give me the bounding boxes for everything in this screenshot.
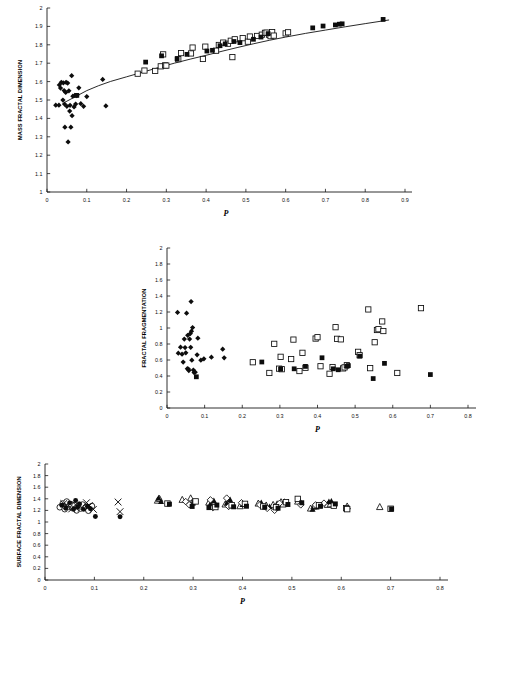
y-axis-tick-label: 1.4 [35, 115, 43, 121]
series-open-square [135, 29, 291, 76]
data-point-square-filled [244, 504, 249, 509]
x-axis-title: P [315, 425, 320, 434]
y-axis-title: FRACTAL FRAGMENTATION [141, 289, 147, 368]
data-point-diamond-filled [84, 94, 89, 99]
x-axis-tick-label: 0.6 [338, 585, 346, 591]
data-point-square-filled [74, 93, 79, 98]
series-open-square [250, 306, 423, 377]
data-point-square-open [344, 506, 349, 511]
data-point-square-open [327, 371, 332, 376]
data-point-square-filled [331, 366, 336, 371]
y-axis-tick-label: 1 [38, 519, 41, 525]
y-axis-tick-label: 1.9 [35, 23, 43, 29]
data-point-square-open [297, 368, 302, 373]
data-point-square-filled [143, 60, 148, 65]
data-point-square-open [318, 364, 323, 369]
y-axis-tick-label: 1.8 [35, 42, 43, 48]
y-axis-tick-label: 1.7 [35, 60, 43, 66]
data-point-square-filled [206, 505, 211, 510]
y-axis-tick-label: 2 [40, 5, 43, 11]
x-axis-tick-label: 0.8 [436, 585, 444, 591]
data-point-diamond-filled [188, 299, 193, 304]
data-point-square-filled [159, 53, 164, 58]
figure-container: 00.10.20.30.40.50.60.70.80.911.11.21.31.… [0, 0, 507, 685]
y-axis-tick-label: 1.2 [35, 152, 43, 158]
data-point-square-open [178, 50, 183, 55]
data-point-diamond-filled [103, 103, 108, 108]
y-axis-tick-label: 1.2 [155, 309, 163, 315]
x-axis-tick-label: 0.5 [242, 197, 250, 203]
y-axis-tick-label: 0.2 [33, 565, 41, 571]
chart-panel-mass-fractal-dimension: 00.10.20.30.40.50.60.70.80.911.11.21.31.… [0, 0, 507, 230]
data-point-square-filled [210, 48, 215, 53]
data-point-square-filled [185, 52, 190, 57]
x-axis-tick-label: 0.9 [401, 197, 409, 203]
y-axis-tick-label: 1 [160, 325, 163, 331]
data-point-diamond-filled [176, 351, 181, 356]
y-axis-title: MASS FRACTAL DIMENSION [17, 60, 23, 140]
data-point-diamond-filled [189, 358, 194, 363]
data-point-square-open [291, 337, 296, 342]
y-axis-tick-label: 0.2 [155, 389, 163, 395]
data-point-square-filled [428, 372, 433, 377]
data-point-diamond-filled [194, 352, 199, 357]
data-point-square-open [240, 36, 245, 41]
axes: 00.10.20.30.40.50.60.70.800.20.40.60.811… [33, 461, 448, 591]
y-axis-tick-label: 1.6 [35, 79, 43, 85]
data-point-square-filled [262, 505, 267, 510]
data-point-square-filled [238, 40, 243, 45]
data-point-square-filled [194, 374, 199, 379]
data-point-square-open [381, 328, 386, 333]
y-axis-tick-label: 0.4 [155, 373, 163, 379]
data-point-square-open [338, 337, 343, 342]
y-axis-tick-label: 1.6 [155, 277, 163, 283]
data-point-square-filled [320, 355, 325, 360]
data-point-square-filled [218, 43, 223, 48]
data-point-square-open [300, 350, 305, 355]
data-point-square-filled [175, 56, 180, 61]
plot-area-b: 00.10.20.30.40.50.60.70.800.20.40.60.811… [141, 245, 476, 434]
y-axis-tick-label: 1.6 [33, 484, 41, 490]
x-axis-tick-label: 0.6 [282, 197, 290, 203]
data-point-square-filled [389, 506, 394, 511]
y-axis-tick-label: 2 [38, 461, 41, 467]
data-point-square-open [164, 63, 169, 68]
plot-area-a: 00.10.20.30.40.50.60.70.80.911.11.21.31.… [17, 5, 412, 218]
data-point-square-open [366, 307, 371, 312]
x-axis-tick-label: 0.7 [427, 413, 435, 419]
x-axis-tick-label: 0 [46, 197, 49, 203]
data-point-square-filled [318, 504, 323, 509]
data-point-square-filled [232, 39, 237, 44]
x-axis-tick-label: 0.5 [288, 585, 296, 591]
x-axis-tick-label: 0.3 [189, 585, 197, 591]
data-point-square-filled [340, 21, 345, 26]
x-axis-tick-label: 0.1 [83, 197, 91, 203]
data-point-square-open [278, 354, 283, 359]
data-point-diamond-filled [182, 336, 187, 341]
y-axis-title: SURFACE FRACTAL DIMENSION [16, 476, 22, 567]
data-point-square-filled [276, 506, 281, 511]
y-axis-tick-label: 1.4 [155, 293, 163, 299]
y-axis-tick-label: 0.6 [33, 542, 41, 548]
x-axis-tick-label: 0.5 [351, 413, 359, 419]
x-axis-title: P [224, 209, 229, 218]
x-axis-tick-label: 0.4 [239, 585, 247, 591]
series-filled-diamond [53, 73, 108, 144]
data-point-square-open [267, 370, 272, 375]
data-point-square-open [271, 33, 276, 38]
y-axis-tick-label: 1.1 [35, 171, 43, 177]
data-point-square-filled [357, 354, 362, 359]
data-point-square-open [380, 319, 385, 324]
data-point-diamond-filled [209, 355, 214, 360]
data-point-square-filled [285, 502, 290, 507]
data-point-diamond-filled [69, 113, 74, 118]
data-point-square-filled [205, 49, 210, 54]
data-point-square-filled [303, 364, 308, 369]
fractal-fragmentation-plot: 00.10.20.30.40.50.60.70.800.20.40.60.811… [0, 238, 507, 443]
data-point-square-filled [336, 367, 341, 372]
data-point-diamond-filled [188, 345, 193, 350]
data-point-square-open [135, 71, 140, 76]
data-point-diamond-filled [67, 108, 72, 113]
data-point-square-filled [346, 363, 351, 368]
x-axis-tick-label: 0.3 [163, 197, 171, 203]
